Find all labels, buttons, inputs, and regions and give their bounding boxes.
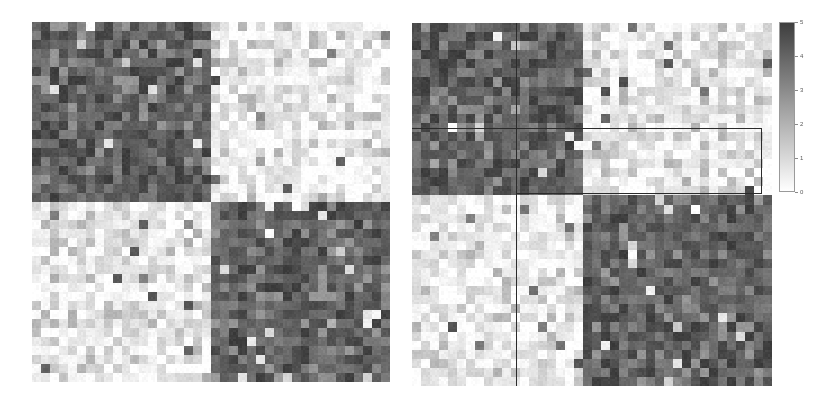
colorbar-tick-5: 5: [795, 19, 803, 25]
highlighted-submatrix-box[interactable]: [516, 128, 763, 194]
colorbar-tick-4: 4: [795, 53, 803, 59]
figure-root: 012345: [0, 0, 831, 405]
left-overlay-layer: [32, 22, 390, 382]
colorbar: 012345: [779, 22, 795, 192]
left-heatmap-panel[interactable]: [32, 22, 390, 382]
colorbar-tick-2: 2: [795, 121, 803, 127]
colorbar-tick-labels: 012345: [795, 22, 829, 192]
colorbar-tick-0: 0: [795, 189, 803, 195]
colorbar-gradient: [779, 22, 795, 192]
right-heatmap-panel[interactable]: [412, 23, 772, 386]
colorbar-tick-3: 3: [795, 87, 803, 93]
partition-divider-vertical: [516, 23, 517, 386]
right-overlay-layer: [412, 23, 772, 386]
colorbar-tick-1: 1: [795, 155, 803, 161]
